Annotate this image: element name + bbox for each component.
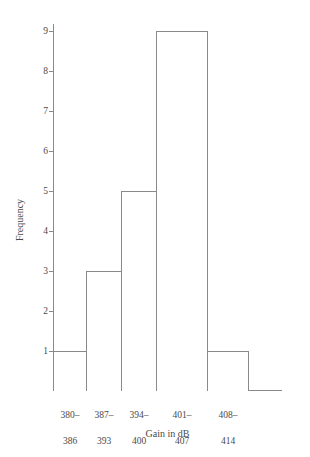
y-tick-label-9: 9	[8, 26, 48, 36]
y-tick-label-1: 1	[8, 346, 48, 356]
y-tick-mark-7	[49, 111, 53, 112]
y-tick-mark-6	[49, 151, 53, 152]
x-axis-title: Gain in dB	[53, 428, 282, 439]
y-tick-label-6: 6	[8, 146, 48, 156]
y-tick-mark-5	[49, 191, 53, 192]
x-tick-label-line1: 387–	[84, 409, 124, 422]
histogram-bar-380-386	[53, 351, 87, 391]
y-tick-label-8: 8	[8, 66, 48, 76]
y-tick-label-2: 2	[8, 306, 48, 316]
y-axis-line	[53, 24, 54, 391]
x-tick-label-401-407: 401– 407	[162, 396, 202, 457]
y-tick-mark-9	[49, 31, 53, 32]
y-tick-mark-2	[49, 311, 53, 312]
histogram-bar-387-393	[86, 271, 122, 391]
x-tick-label-387-393: 387– 393	[84, 396, 124, 457]
y-axis-title: Frequency	[14, 170, 26, 270]
histogram-chart: 9 8 7 6 5 4 3 2 1 380– 386 387– 393 394–…	[0, 0, 310, 457]
y-tick-mark-3	[49, 271, 53, 272]
y-tick-label-7: 7	[8, 106, 48, 116]
histogram-bar-408-414	[207, 351, 249, 391]
x-tick-label-line1: 408–	[208, 409, 248, 422]
y-tick-mark-4	[49, 231, 53, 232]
x-tick-label-394-400: 394– 400	[119, 396, 159, 457]
y-tick-mark-8	[49, 71, 53, 72]
x-tick-label-408-414: 408– 414	[208, 396, 248, 457]
histogram-bar-394-400	[121, 191, 157, 391]
x-tick-label-line1: 394–	[119, 409, 159, 422]
histogram-bar-401-407	[156, 31, 208, 391]
x-tick-label-line1: 401–	[162, 409, 202, 422]
